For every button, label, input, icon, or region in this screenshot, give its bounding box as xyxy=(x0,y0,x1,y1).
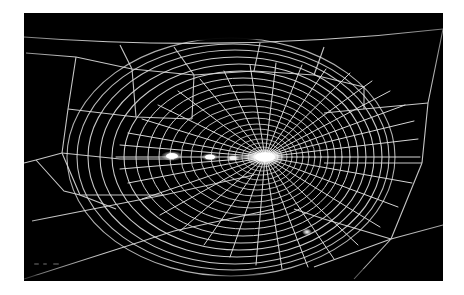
spider-web-drawing xyxy=(24,13,443,281)
vignette-overlay xyxy=(24,13,443,281)
spider-web-photograph xyxy=(24,13,443,281)
page-canvas: orb spider web xyxy=(0,0,464,295)
